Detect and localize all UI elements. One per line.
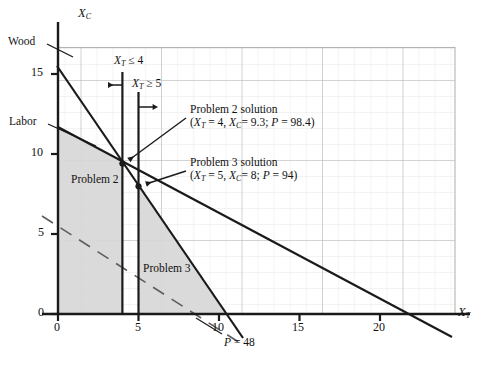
x-tick-10: 10 bbox=[212, 321, 224, 335]
problem-2-solution-annotation: Problem 2 solution (XT = 4, XC= 9.3; P =… bbox=[190, 103, 315, 131]
y-tick-15: 15 bbox=[31, 66, 43, 80]
problem-3-region-label: Problem 3 bbox=[143, 262, 191, 275]
xt-le-4-label: XT ≤ 4 bbox=[114, 54, 143, 68]
problem-3-solution-point bbox=[135, 183, 141, 189]
x-tick-15: 15 bbox=[292, 321, 304, 335]
labor-label: Labor bbox=[9, 115, 36, 128]
linear-programming-graph: XC XT 15 10 5 0 0 5 10 15 20 Wood Labor … bbox=[0, 0, 492, 367]
problem-2-solution-title: Problem 2 solution bbox=[190, 103, 315, 116]
problem-2-region-label: Problem 2 bbox=[71, 173, 119, 186]
y-axis bbox=[51, 22, 58, 314]
problem-3-solution-title: Problem 3 solution bbox=[190, 156, 297, 169]
wood-label: Wood bbox=[8, 35, 35, 48]
x-axis-title: XT bbox=[458, 305, 470, 320]
y-tick-5: 5 bbox=[38, 226, 44, 240]
y-tick-0: 0 bbox=[38, 306, 44, 320]
x-axis bbox=[42, 314, 470, 321]
isoprofit-label: P = 48 bbox=[224, 336, 255, 349]
problem-3-solution-annotation: Problem 3 solution (XT = 5, XC= 8; P = 9… bbox=[190, 156, 297, 184]
y-tick-10: 10 bbox=[31, 146, 43, 160]
x-tick-0: 0 bbox=[54, 321, 60, 335]
y-axis-title: XC bbox=[78, 6, 91, 21]
x-tick-5: 5 bbox=[135, 321, 141, 335]
problem-2-solution-point bbox=[119, 160, 125, 166]
problem-3-solution-values: (XT = 5, XC= 8; P = 94) bbox=[190, 169, 297, 183]
problem-2-solution-values: (XT = 4, XC= 9.3; P = 98.4) bbox=[190, 116, 315, 130]
xt-ge-5-label: XT ≥ 5 bbox=[132, 77, 161, 91]
x-tick-20: 20 bbox=[373, 321, 385, 335]
